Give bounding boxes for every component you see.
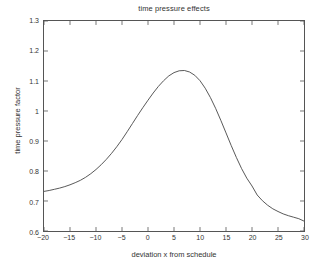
y-axis-tick-label: 0.8: [13, 168, 39, 175]
data-series-line: [44, 70, 304, 221]
y-axis-tick-label: 1.1: [13, 77, 39, 84]
y-axis-tick-label: 0.7: [13, 198, 39, 205]
y-axis-tick-label: 1.2: [13, 47, 39, 54]
x-axis-tick-label: 30: [290, 234, 320, 241]
y-axis-tick-labels: 0.60.70.80.911.11.21.3: [11, 20, 39, 232]
x-axis-tick-labels: −20−15−10−5051015202530: [43, 234, 305, 246]
plot-area: [43, 20, 305, 232]
plot-svg: [44, 21, 304, 231]
y-axis-tick-label: 1: [13, 107, 39, 114]
y-axis-ticks: [44, 21, 304, 231]
y-axis-tick-label: 1.3: [13, 17, 39, 24]
y-axis-tick-label: 0.9: [13, 138, 39, 145]
chart-figure: time pressure effects time pressure fact…: [0, 0, 325, 269]
x-axis-label: deviation x from schedule: [43, 250, 305, 259]
x-axis-ticks: [44, 21, 304, 231]
chart-title: time pressure effects: [43, 4, 305, 13]
